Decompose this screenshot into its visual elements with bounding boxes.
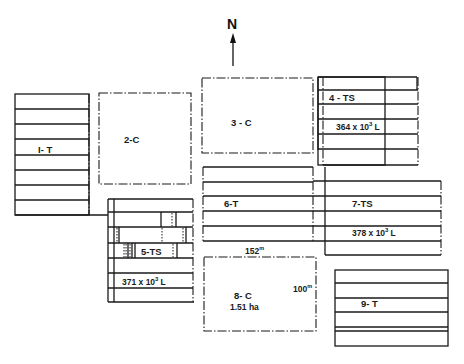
plot-5-ts: 5-TS 371 x 103L [15, 199, 194, 302]
plot-9-outline [335, 270, 448, 346]
plot-8-c: 152m 100m 8- C 1.51 ha [204, 245, 316, 331]
plot-3-c: 3 - C [202, 78, 313, 153]
plot-4-label: 4 - TS [329, 92, 355, 103]
plot-7-label: 7-TS [352, 198, 373, 209]
plot-4-ts: 4 - TS 364 x 103L [318, 77, 418, 165]
plot-3-outline [202, 78, 313, 153]
plot-8-width-dimension: 152m [245, 245, 264, 256]
plot-2-c: 2-C [99, 93, 191, 184]
plot-8-label: 8- C [234, 290, 252, 301]
plot-6-label: 6-T [224, 198, 238, 209]
plot-9-label: 9- T [361, 298, 378, 309]
north-label: N [227, 16, 237, 32]
plot-6-t: 6-T [203, 167, 313, 241]
plot-8-outline [204, 257, 316, 331]
plot-2-label: 2-C [124, 134, 139, 145]
plot-5-label: 5-TS [141, 246, 162, 257]
plot-3-label: 3 - C [231, 117, 252, 128]
plot-1-t: I- T [15, 94, 89, 215]
plot-8-area: 1.51 ha [230, 302, 259, 312]
field-layout-diagram: N I- T 2-C 3 - C 4 [0, 0, 464, 364]
plot-7-volume: 378 x 103L [352, 227, 396, 238]
plot-5-volume: 371 x 103L [122, 276, 166, 287]
plot-8-height-dimension: 100m [293, 283, 312, 294]
plot-1-label: I- T [38, 144, 52, 155]
north-arrow: N [227, 16, 237, 66]
plot-4-volume: 364 x 103L [336, 121, 380, 132]
north-arrow-head-icon [230, 33, 236, 43]
plot-7-ts: 7-TS 378 x 103L [313, 167, 441, 255]
plot-2-outline [99, 93, 191, 184]
plot-9-t: 9- T [335, 270, 448, 346]
